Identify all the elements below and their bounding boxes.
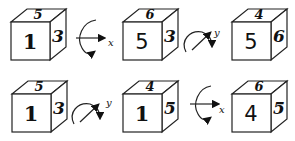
top-face-number: 5 (34, 79, 43, 94)
side-face-number: 5 (273, 98, 285, 118)
rotation-x-icon: x (76, 20, 114, 54)
cube-row1-3: 5 4 6 (232, 7, 287, 60)
front-face-number: 5 (135, 30, 148, 54)
front-face-number: 5 (244, 30, 257, 54)
axis-label: x (108, 37, 114, 48)
front-face-number: 1 (135, 101, 150, 126)
side-face-number: 3 (164, 26, 176, 46)
side-face-number: 3 (52, 26, 64, 46)
top-face-number: 6 (145, 7, 154, 22)
axis-label: x (219, 104, 225, 115)
front-face-number: 4 (244, 102, 257, 126)
side-face-number: 3 (53, 98, 65, 118)
top-face-number: 6 (254, 79, 263, 94)
front-face-number: 1 (23, 29, 38, 54)
axis-label: y (213, 27, 220, 38)
top-face-number: 4 (254, 7, 263, 22)
rotation-y-icon: y (72, 97, 112, 124)
cube-rotation-diagram: 1 5 3 x 5 6 3 y 5 4 6 1 5 3 (0, 0, 295, 141)
cube-row2-3: 4 6 5 (232, 79, 287, 132)
axis-label: y (105, 97, 112, 108)
top-face-number: 5 (33, 7, 42, 22)
top-face-number: 4 (145, 79, 154, 94)
rotation-y-icon: y (184, 27, 220, 52)
rotation-x-icon: x (190, 86, 225, 120)
front-face-number: 1 (24, 101, 39, 126)
side-face-number: 6 (273, 26, 285, 46)
side-face-number: 5 (164, 98, 176, 118)
cube-row2-2: 1 4 5 (123, 79, 178, 132)
cube-row2-1: 1 5 3 (12, 79, 67, 132)
cube-row1-2: 5 6 3 (123, 7, 178, 60)
cube-row1-1: 1 5 3 (11, 7, 66, 60)
